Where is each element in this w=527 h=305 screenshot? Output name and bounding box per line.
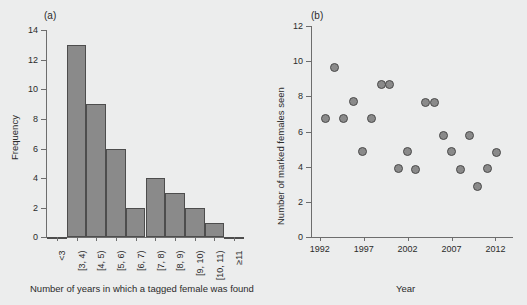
panel-a-xtick	[155, 237, 156, 241]
panel-a-xtick	[77, 237, 78, 241]
panel-a-xtick	[96, 237, 97, 241]
scatter-point	[421, 98, 430, 107]
scatter-point	[385, 80, 394, 89]
panel-a-ytick-0	[41, 237, 46, 238]
panel-b-x-axis-title: Year	[396, 283, 415, 294]
scatter-point	[330, 63, 339, 72]
panel-a-xtick	[116, 237, 117, 241]
panel-a-xtick	[195, 237, 196, 241]
panel-a-ytick-14	[41, 30, 46, 31]
panel-a-xtick	[214, 237, 215, 241]
panel-a-ytick-label-10: 10	[16, 85, 38, 94]
histogram-bar	[146, 178, 166, 237]
scatter-point	[339, 114, 348, 123]
scatter-point	[456, 165, 465, 174]
panel-a-label: (a)	[44, 10, 56, 21]
scatter-point	[411, 165, 420, 174]
scatter-point	[439, 131, 448, 140]
scatter-point	[394, 164, 403, 173]
scatter-point	[492, 148, 501, 157]
histogram-bar	[126, 208, 146, 237]
histogram-bar	[165, 193, 185, 237]
panel-a-ytick-label-2: 2	[16, 204, 38, 213]
panel-a-ytick-label-12: 12	[16, 56, 38, 65]
panel-a-xtick	[136, 237, 137, 241]
panel-a-ytick-10	[41, 89, 46, 90]
histogram-bar	[86, 104, 106, 237]
scatter-points-layer	[263, 0, 527, 305]
panel-a-ytick-6	[41, 149, 46, 150]
histogram-bar	[205, 223, 225, 237]
panel-a-histogram: (a) Frequency 14 12 10 8 6 4 2 0	[0, 0, 264, 305]
panel-a-ytick-8	[41, 119, 46, 120]
panel-a-ytick-2	[41, 208, 46, 209]
panel-a-xtick	[57, 237, 58, 241]
histogram-bar	[67, 45, 87, 237]
scatter-point	[321, 114, 330, 123]
scatter-point	[430, 98, 439, 107]
scatter-point	[403, 147, 412, 156]
panel-a-xtick	[175, 237, 176, 241]
scatter-point	[465, 131, 474, 140]
panel-a-ytick-label-8: 8	[16, 115, 38, 124]
scatter-point	[367, 114, 376, 123]
panel-a-ytick-4	[41, 178, 46, 179]
scatter-point	[358, 147, 367, 156]
panel-a-ytick-label-4: 4	[16, 174, 38, 183]
panel-a-ytick-12	[41, 60, 46, 61]
panel-b-scatter: (b) Number of marked females seen 12 10 …	[263, 0, 527, 305]
histogram-bar	[185, 208, 205, 237]
scatter-point	[473, 182, 482, 191]
panel-a-x-axis-title: Number of years in which a tagged female…	[30, 283, 254, 294]
scatter-point	[349, 97, 358, 106]
panel-a-xtick	[234, 237, 235, 241]
panel-a-ytick-label-14: 14	[16, 26, 38, 35]
panel-a-ytick-label-0: 0	[16, 233, 38, 242]
panel-a-ytick-label-6: 6	[16, 145, 38, 154]
panel-a-y-axis-line	[46, 30, 47, 238]
scatter-point	[483, 164, 492, 173]
histogram-bar	[106, 149, 126, 237]
scatter-point	[447, 147, 456, 156]
figure: (a) Frequency 14 12 10 8 6 4 2 0	[0, 0, 527, 305]
